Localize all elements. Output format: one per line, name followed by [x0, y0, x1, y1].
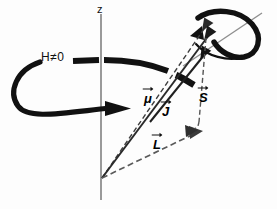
j-vector-label: J: [162, 105, 169, 118]
larmor-band-segment-1: [73, 60, 99, 61]
s-vector-label: S: [199, 91, 208, 104]
l-vector-shaft: [102, 133, 196, 178]
l-vector-label: L: [153, 138, 161, 151]
angular-momentum-precession-figure: z H≠0 μ J S L: [0, 0, 277, 209]
figure-canvas: [0, 0, 277, 209]
mu-vector-shaft: [102, 26, 206, 178]
z-axis-label: z: [97, 4, 103, 15]
j-vector-label-text: J: [162, 105, 169, 118]
mu-vector-label-text: μ: [144, 92, 152, 105]
mu-vector-label: μ: [144, 92, 152, 105]
magnetic-field-label: H≠0: [41, 51, 64, 63]
larmor-precession-arrowhead: [105, 101, 131, 116]
l-vector-label-text: L: [153, 138, 161, 151]
s-vector-label-text: S: [199, 91, 208, 104]
larmor-precession-arc-left: [14, 62, 110, 114]
s-vector-shaft: [150, 54, 205, 122]
larmor-band-segment-2: [104, 60, 168, 71]
